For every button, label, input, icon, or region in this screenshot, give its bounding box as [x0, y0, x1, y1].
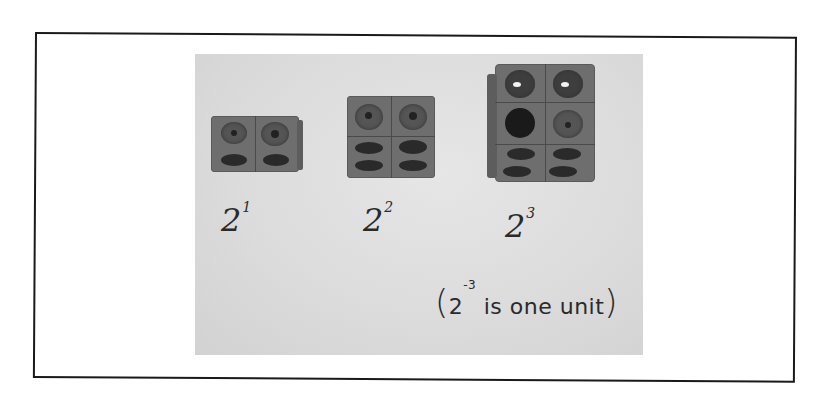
note-exponent: -3 [463, 278, 476, 292]
cube-hole [221, 154, 247, 166]
cube-hole [549, 166, 577, 177]
cube-hole [507, 148, 535, 160]
label-2-to-2: 22 [363, 204, 393, 236]
label-exponent: 3 [526, 205, 535, 221]
cube-hole-center [271, 130, 279, 138]
close-paren: ) [604, 282, 618, 322]
cube-photo: 21 22 23 (2-3 is one unit) [195, 54, 643, 355]
cube-seam [495, 144, 595, 145]
label-2-to-3: 23 [505, 210, 535, 242]
cube-hole-center [409, 112, 417, 120]
cube-hole-center [365, 112, 372, 119]
cube-hole [553, 148, 581, 160]
cube-hole-center [565, 122, 571, 128]
cube-seam [545, 64, 546, 182]
label-exponent: 2 [384, 199, 393, 215]
cube-seam [391, 96, 392, 178]
cube-hole [355, 142, 383, 154]
cube-hole [355, 160, 383, 171]
cube-side [297, 120, 303, 170]
open-paren: ( [435, 282, 449, 322]
cube-hole-center [231, 130, 237, 136]
label-base: 2 [363, 201, 383, 239]
cube-hole [399, 140, 427, 154]
cube-group-2-2 [347, 96, 437, 178]
cube-hole-glint [513, 82, 521, 87]
cube-group-2-3 [487, 64, 599, 184]
label-2-to-1: 21 [221, 204, 251, 236]
cube-hole [399, 160, 427, 171]
cube-seam [347, 136, 435, 137]
cube-hole [263, 154, 289, 166]
unit-note: (2-3 is one unit) [435, 282, 618, 322]
label-base: 2 [505, 207, 525, 245]
cube-hole [505, 108, 535, 138]
label-base: 2 [221, 201, 241, 239]
cube-seam [255, 116, 256, 172]
cube-seam [495, 102, 595, 103]
cube-side [487, 74, 497, 178]
note-text: is one unit [476, 294, 604, 319]
cube-hole [503, 166, 531, 177]
note-base: 2 [449, 294, 464, 319]
label-exponent: 1 [242, 199, 251, 215]
cube-hole-glint [561, 82, 569, 87]
cube-group-2-1 [211, 116, 303, 174]
